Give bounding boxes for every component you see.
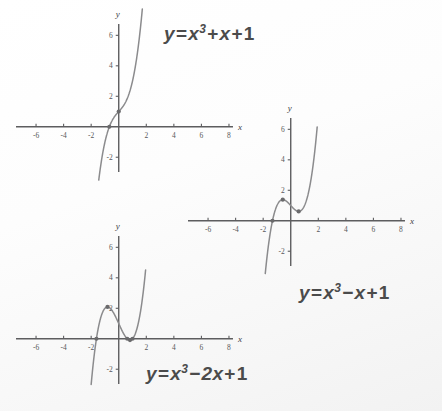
plot-1-point-1 <box>107 125 111 129</box>
eq3-equals: = <box>157 363 170 384</box>
plot-2-ytick-0: -2 <box>278 247 284 256</box>
plot-3-ytick-3: 6 <box>109 243 113 252</box>
plot-2-point-2 <box>270 219 274 223</box>
plot-2-xtick-2: -2 <box>260 225 266 234</box>
plot-3-ytick-0: -2 <box>106 365 112 374</box>
eq3-op2: + <box>223 363 236 384</box>
plot-1-xtick-1: -4 <box>60 131 66 140</box>
eq3-base: x <box>170 363 181 384</box>
eq2-term3: 1 <box>379 282 390 303</box>
plot-1-xtick-0: -6 <box>33 131 39 140</box>
plot-2-xtick-6: 8 <box>399 225 403 234</box>
plot-2-xtick-4: 4 <box>344 225 348 234</box>
plot-1-equation-label: y=x3+x+1 <box>164 22 255 45</box>
plot-2-xtick-3: 2 <box>316 225 320 234</box>
plot-3-equation-label: y=x3−2x+1 <box>146 362 248 385</box>
plot-3-xtick-0: -6 <box>33 343 39 352</box>
plot-3-xtick-2: -2 <box>88 343 94 352</box>
plot-2-point-1 <box>297 209 301 213</box>
plot-3-point-3 <box>125 337 129 341</box>
eq2-base: x <box>323 282 334 303</box>
plot-1-ytick-1: 2 <box>109 92 113 101</box>
eq1-term3: 1 <box>244 23 255 44</box>
plot-2-equation-label: y=x3−x+1 <box>299 281 390 304</box>
plot-3-x-axis: -6-4-22468x <box>16 334 242 352</box>
plot-1-y-axis: -2246y <box>106 9 119 172</box>
eq3-term3: 1 <box>237 363 248 384</box>
eq2-op1: − <box>341 282 354 303</box>
eq1-op1: + <box>206 23 219 44</box>
plot-3-point-4 <box>130 337 134 341</box>
eq3-lhs: y <box>146 363 157 384</box>
plot-3-ylabel: y <box>115 221 120 231</box>
figure-canvas: -6-4-22468x-2246y y=x3+x+1 -6-4-22468x-2… <box>0 0 442 411</box>
plot-3-xtick-3: 2 <box>144 343 148 352</box>
plot-1-curve <box>99 9 143 180</box>
eq2-op2: + <box>365 282 378 303</box>
eq3-term2: 2x <box>202 363 224 384</box>
plot-1-xtick-3: 2 <box>144 131 148 140</box>
plot-2-ytick-1: 2 <box>281 186 285 195</box>
plot-1-ytick-0: -2 <box>106 153 112 162</box>
plot-1-ylabel: y <box>115 9 120 19</box>
plot-2-ytick-2: 4 <box>281 155 285 164</box>
eq2-lhs: y <box>299 282 310 303</box>
plot-3-xtick-6: 8 <box>227 343 231 352</box>
plot-3-point-2 <box>94 337 98 341</box>
eq2-term2: x <box>355 282 366 303</box>
plot-3-xtick-4: 4 <box>172 343 176 352</box>
plot-3-xtick-5: 6 <box>200 343 204 352</box>
eq1-op2: + <box>230 23 243 44</box>
plot-1-ytick-3: 6 <box>109 31 113 40</box>
eq2-equals: = <box>310 282 323 303</box>
plot-2-ylabel: y <box>287 103 292 113</box>
plot-1-point-0 <box>117 109 121 113</box>
plot-1-ytick-2: 4 <box>109 61 113 70</box>
plot-1-xtick-4: 4 <box>172 131 176 140</box>
plot-2-xtick-5: 6 <box>372 225 376 234</box>
plot-1-xtick-2: -2 <box>88 131 94 140</box>
eq1-lhs: y <box>164 23 175 44</box>
plot-3-xtick-1: -4 <box>60 343 66 352</box>
plot-3-ytick-2: 4 <box>109 273 113 282</box>
plot-2-xlabel: x <box>409 216 414 226</box>
eq1-term2: x <box>220 23 231 44</box>
plot-2-ytick-3: 6 <box>281 125 285 134</box>
plot-2-y-axis: -2246y <box>278 103 291 266</box>
plot-3-xlabel: x <box>237 334 242 344</box>
plot-3-y-axis: -2246y <box>106 221 119 384</box>
eq3-op1: − <box>188 363 201 384</box>
plot-3-point-0 <box>105 305 109 309</box>
plot-2-point-0 <box>281 198 285 202</box>
eq1-base: x <box>188 23 199 44</box>
eq1-equals: = <box>175 23 188 44</box>
